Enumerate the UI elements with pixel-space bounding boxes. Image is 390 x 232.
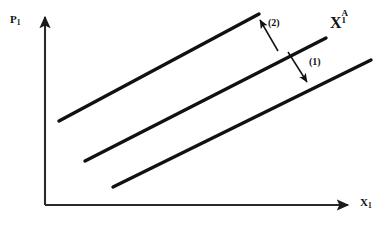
- curve-label-x1a: XA1: [330, 12, 349, 31]
- supply-curves-group: [59, 14, 371, 187]
- quantity-axis-label-subscript: 1: [368, 201, 372, 210]
- supply-curve-upper: [59, 14, 259, 121]
- price-axis-label: P1: [10, 14, 20, 27]
- price-axis-label-subscript: 1: [17, 18, 21, 27]
- price-axis-label-base: P: [10, 13, 17, 25]
- axes-group: [45, 17, 348, 205]
- curve-label-subscript: 1: [342, 16, 347, 25]
- curve-label-base: X: [330, 14, 342, 31]
- shift-arrow-2-label: (2): [268, 18, 280, 28]
- quantity-axis-label-base: X: [360, 196, 368, 208]
- shift-arrow-1-label: (1): [309, 57, 321, 67]
- diagram-canvas: [0, 0, 390, 232]
- shift-arrow-1: [288, 52, 307, 82]
- economics-supply-shift-diagram: P1 X1 XA1 (2) (1): [0, 0, 390, 232]
- curve-label-scripts: A1: [342, 12, 349, 28]
- quantity-axis-label: X1: [360, 197, 372, 210]
